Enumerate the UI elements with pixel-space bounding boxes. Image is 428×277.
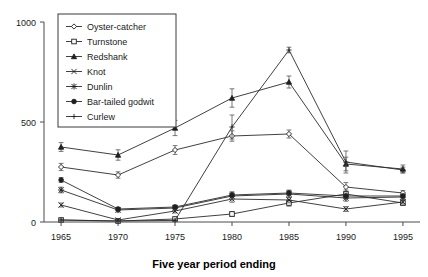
circle-marker-icon xyxy=(72,99,77,104)
series-dunlin xyxy=(58,187,406,213)
data-point-star xyxy=(58,187,64,193)
data-point-circle xyxy=(72,99,77,104)
legend-item-label: Curlew xyxy=(87,112,116,122)
x-axis-tick-label: 1985 xyxy=(279,232,299,242)
data-point-square xyxy=(72,39,77,44)
x-axis-tick-label: 1995 xyxy=(393,232,413,242)
data-point-circle xyxy=(401,194,406,199)
data-point-circle xyxy=(344,194,349,199)
data-point-diamond xyxy=(58,164,63,169)
data-point-square xyxy=(230,212,235,217)
data-point-diamond xyxy=(115,172,120,177)
legend-item-label: Bar-tailed godwit xyxy=(87,97,155,107)
circle-marker-icon xyxy=(59,178,64,183)
data-point-star xyxy=(71,83,77,89)
series-polyline xyxy=(61,134,403,193)
x-axis-title: Five year period ending xyxy=(152,258,275,270)
data-point-triangle xyxy=(286,79,291,84)
square-marker-icon xyxy=(230,212,235,217)
data-point-diamond xyxy=(172,147,177,152)
x-axis-tick-label: 1990 xyxy=(336,232,356,242)
data-point-circle xyxy=(287,191,292,196)
data-point-circle xyxy=(116,207,121,212)
data-point-plus xyxy=(400,167,405,172)
data-point-circle xyxy=(59,178,64,183)
line-chart-canvas: 050010001965197019751980198519901995 Oys… xyxy=(0,0,428,277)
y-axis-tick-label: 0 xyxy=(31,218,36,228)
circle-marker-icon xyxy=(116,207,121,212)
x-axis-tick-label: 1975 xyxy=(165,232,185,242)
legend-item-label: Oyster-catcher xyxy=(87,22,146,32)
circle-marker-icon xyxy=(287,191,292,196)
diamond-marker-icon xyxy=(58,164,63,169)
data-point-circle xyxy=(230,193,235,198)
series-bar-tailed-godwit xyxy=(59,178,406,212)
legend-item-label: Turnstone xyxy=(87,37,127,47)
y-axis-tick-label: 1000 xyxy=(16,18,36,28)
y-axis-tick-label: 500 xyxy=(21,118,36,128)
circle-marker-icon xyxy=(401,194,406,199)
plus-marker-icon xyxy=(400,167,405,172)
legend-layer: Oyster-catcherTurnstoneRedshankKnotDunli… xyxy=(58,14,176,127)
diamond-marker-icon xyxy=(172,147,177,152)
circle-marker-icon xyxy=(344,194,349,199)
diamond-marker-icon xyxy=(115,172,120,177)
circle-marker-icon xyxy=(230,193,235,198)
legend-item-label: Knot xyxy=(87,67,106,77)
circle-marker-icon xyxy=(173,205,178,210)
data-point-circle xyxy=(173,205,178,210)
x-axis-tick-label: 1970 xyxy=(108,232,128,242)
star-marker-icon xyxy=(58,187,64,193)
star-marker-icon xyxy=(71,83,77,89)
chart-figure: 050010001965197019751980198519901995 Oys… xyxy=(0,0,428,277)
x-axis-tick-label: 1965 xyxy=(51,232,71,242)
triangle-marker-icon xyxy=(286,79,291,84)
legend-item-label: Dunlin xyxy=(87,82,113,92)
x-axis-tick-label: 1980 xyxy=(222,232,242,242)
legend-item-label: Redshank xyxy=(87,52,128,62)
square-marker-icon xyxy=(72,39,77,44)
